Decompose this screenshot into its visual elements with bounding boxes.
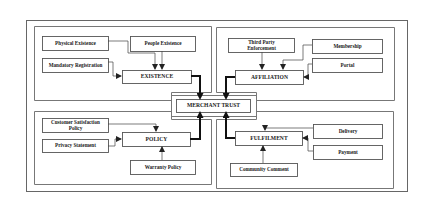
people-existence-node: People Existence	[131, 37, 196, 52]
edge-customer-satisfaction-policy-to-policy	[108, 124, 156, 131]
customer-satisfaction-policy-label: Policy	[69, 125, 83, 131]
edge-delivery-to-fulfilment	[265, 128, 313, 130]
privacy-statement-label: Privacy Statement	[55, 142, 96, 148]
fulfilment-node: FULFILMENT	[236, 132, 303, 146]
existence-node: EXISTENCE	[123, 71, 192, 84]
delivery-node: Delivery	[314, 125, 383, 139]
policy-label: POLICY	[146, 136, 168, 142]
mandatory-registration-node: Mandatory Registration	[43, 59, 109, 73]
warranty-policy-label: Warranty Policy	[145, 164, 182, 170]
customer-satisfaction-policy-node: Customer SatisfactionPolicy	[43, 119, 109, 133]
membership-label: Membership	[333, 43, 361, 49]
merchant-trust-label: MERCHANT TRUST	[187, 102, 240, 108]
merchant-trust-diagram: MERCHANT TRUSTEXISTENCEPhysical Existenc…	[0, 0, 424, 198]
edge-affiliation-to-merchant-trust	[226, 77, 235, 98]
payment-label: Payment	[338, 149, 358, 155]
third-party-enforcement-label: Enforcement	[247, 45, 276, 51]
physical-existence-label: Physical Existence	[55, 40, 96, 46]
warranty-policy-node: Warranty Policy	[131, 161, 196, 175]
membership-node: Membership	[313, 40, 383, 54]
third-party-enforcement-node: Third PartyEnforcement	[229, 39, 295, 53]
community-comment-node: Community Comment	[231, 164, 298, 177]
fulfilment-label: FULFILMENT	[250, 135, 288, 141]
affiliation-node: AFFILIATION	[236, 71, 304, 85]
delivery-label: Delivery	[339, 128, 358, 134]
community-comment-label: Community Comment	[239, 166, 289, 172]
edge-portal-to-affiliation	[304, 64, 312, 77]
people-existence-label: People Existence	[144, 40, 182, 46]
edge-mandatory-registration-to-existence	[108, 62, 121, 76]
existence-label: EXISTENCE	[141, 73, 174, 79]
portal-node: Portal	[313, 59, 383, 73]
merchant-trust-node: MERCHANT TRUST	[177, 100, 251, 113]
affiliation-label: AFFILIATION	[251, 74, 288, 80]
edge-privacy-statement-to-policy	[108, 139, 121, 146]
policy-node: POLICY	[123, 133, 191, 147]
portal-label: Portal	[341, 62, 355, 68]
mandatory-registration-label: Mandatory Registration	[49, 62, 103, 68]
physical-existence-node: Physical Existence	[43, 37, 109, 51]
edge-payment-to-fulfilment	[303, 138, 313, 151]
edge-existence-to-merchant-trust	[191, 76, 200, 98]
privacy-statement-node: Privacy Statement	[43, 140, 109, 153]
payment-node: Payment	[314, 146, 383, 160]
